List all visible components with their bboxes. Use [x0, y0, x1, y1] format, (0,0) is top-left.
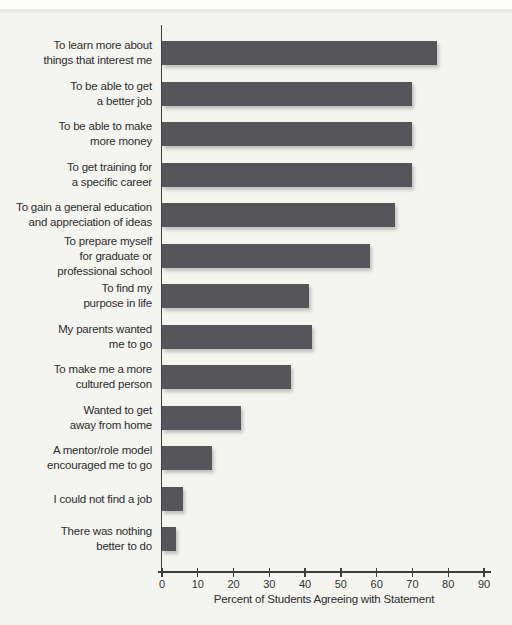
category-label-line: To gain a general education [0, 200, 152, 215]
bar [162, 325, 312, 349]
bar [162, 487, 183, 511]
category-label-line: for graduate or [0, 248, 152, 263]
x-axis-tick-label: 60 [371, 578, 383, 590]
category-label-line: a better job [0, 94, 152, 109]
category-label-line: more money [0, 134, 152, 149]
category-label-line: and appreciation of ideas [0, 215, 152, 230]
x-axis-tick-mark [448, 568, 449, 577]
bar [162, 82, 412, 106]
category-label: There was nothingbetter to do [0, 524, 152, 554]
category-label-line: To prepare myself [0, 233, 152, 248]
x-axis-tick-mark [269, 568, 270, 577]
category-label-line: To be able to get [0, 79, 152, 94]
category-label: Wanted to getaway from home [0, 403, 152, 433]
x-axis-tick-mark [161, 568, 162, 577]
x-axis-tick-mark [197, 568, 198, 577]
category-label: I could not find a job [0, 491, 152, 506]
category-label-line: To be able to make [0, 119, 152, 134]
category-label-line: purpose in life [0, 296, 152, 311]
bar [162, 122, 412, 146]
category-label-line: better to do [0, 539, 152, 554]
category-label-line: me to go [0, 337, 152, 352]
x-axis-line [158, 571, 491, 573]
category-label-line: things that interest me [0, 53, 152, 68]
category-label-line: a specific career [0, 175, 152, 190]
category-label-line: professional school [0, 263, 152, 278]
category-label: To make me a morecultured person [0, 362, 152, 392]
x-axis-tick-label: 20 [227, 578, 239, 590]
category-label-line: encouraged me to go [0, 458, 152, 473]
category-label-line: To find my [0, 281, 152, 296]
bar [162, 406, 241, 430]
category-label: To gain a general educationand appreciat… [0, 200, 152, 230]
bar [162, 365, 291, 389]
bar [162, 203, 395, 227]
category-label-line: There was nothing [0, 524, 152, 539]
category-label: To be able to geta better job [0, 79, 152, 109]
category-label: A mentor/role modelencouraged me to go [0, 443, 152, 473]
x-axis-tick-mark [376, 568, 377, 577]
x-axis-tick-mark [304, 568, 305, 577]
category-label-line: cultured person [0, 377, 152, 392]
x-axis-tick-mark [233, 568, 234, 577]
x-axis-tick-mark [340, 568, 341, 577]
category-label: To be able to makemore money [0, 119, 152, 149]
x-axis-tick-mark [483, 568, 484, 577]
x-axis-tick-label: 50 [335, 578, 347, 590]
category-label: My parents wantedme to go [0, 322, 152, 352]
category-label: To get training fora specific career [0, 160, 152, 190]
bar [162, 41, 437, 65]
category-label-line: To learn more about [0, 38, 152, 53]
x-axis-tick-label: 40 [299, 578, 311, 590]
category-label-line: Wanted to get [0, 403, 152, 418]
x-axis-tick-label: 80 [442, 578, 454, 590]
category-label-line: To make me a more [0, 362, 152, 377]
category-label: To find mypurpose in life [0, 281, 152, 311]
bar [162, 446, 212, 470]
category-label: To learn more aboutthings that interest … [0, 38, 152, 68]
bar [162, 163, 412, 187]
x-axis-tick-mark [412, 568, 413, 577]
bar [162, 527, 176, 551]
x-axis-tick-label: 70 [406, 578, 418, 590]
bar [162, 284, 309, 308]
bar-chart-figure: To learn more aboutthings that interest … [0, 0, 512, 625]
category-label-line: away from home [0, 418, 152, 433]
category-label-line: My parents wanted [0, 322, 152, 337]
x-axis-tick-label: 10 [192, 578, 204, 590]
category-label: To prepare myselffor graduate orprofessi… [0, 233, 152, 278]
category-label-line: I could not find a job [0, 491, 152, 506]
category-label-line: A mentor/role model [0, 443, 152, 458]
x-axis-tick-label: 30 [263, 578, 275, 590]
bar [162, 244, 370, 268]
x-axis-title: Percent of Students Agreeing with Statem… [214, 593, 434, 605]
category-label-line: To get training for [0, 160, 152, 175]
x-axis-tick-label: 0 [159, 578, 165, 590]
x-axis-tick-label: 90 [478, 578, 490, 590]
plot-area: To learn more aboutthings that interest … [0, 0, 512, 625]
